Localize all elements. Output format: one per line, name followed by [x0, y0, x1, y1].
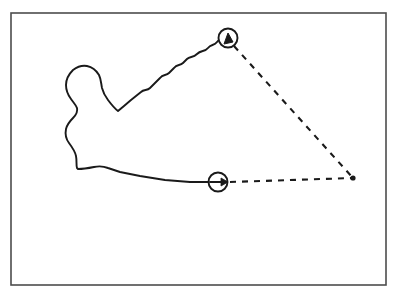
direction-marker-bottom[interactable]: [209, 173, 229, 192]
apex-vertex-point: [350, 175, 355, 180]
figure-background: [0, 0, 408, 298]
figure-root: [0, 0, 408, 298]
direction-marker-top[interactable]: [219, 29, 238, 48]
shape-diagram-svg: [0, 0, 408, 298]
